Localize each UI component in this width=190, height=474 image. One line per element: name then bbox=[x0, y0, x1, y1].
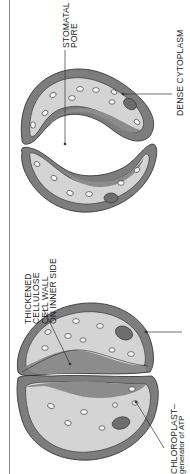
label-chloroplast: CHLOROPLAST– generator of ATP bbox=[170, 404, 186, 474]
open-guard-cell-lower bbox=[21, 144, 156, 212]
label-stomatal-pore: STOMATAL PORE bbox=[62, 2, 79, 48]
label-thickened-cell-wall: THICKENED CELLULOSE CELL WALL ON INNER S… bbox=[24, 258, 58, 324]
open-guard-cell-upper bbox=[21, 69, 153, 144]
closed-guard-cell-lower bbox=[17, 375, 158, 460]
guard-cells-illustration bbox=[0, 0, 190, 474]
diagram-canvas: STOMATAL PORE DENSE CYTOPLASM THICKENED … bbox=[0, 0, 190, 474]
label-dense-cytoplasm: DENSE CYTOPLASM bbox=[176, 30, 184, 116]
